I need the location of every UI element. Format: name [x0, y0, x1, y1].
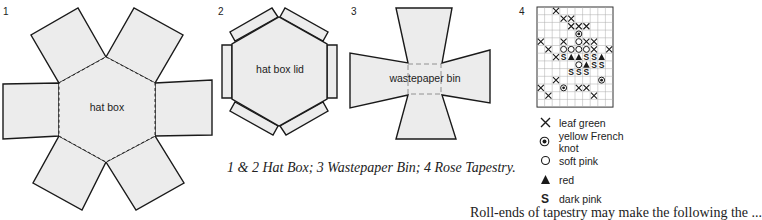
legend-item-yellow-french-knot: yellow French knot [537, 132, 645, 151]
legend-item-soft-pink: soft pink [537, 151, 645, 170]
triangle-icon [537, 174, 553, 185]
hat-box-flap-left [3, 83, 59, 139]
tapestry-chart: SSSSSSSS [537, 7, 613, 107]
svg-text:S: S [568, 67, 574, 77]
svg-text:S: S [576, 67, 582, 77]
cross-icon [537, 117, 553, 128]
s-symbol-icon: S [537, 192, 553, 206]
svg-text:S: S [584, 52, 590, 62]
figure-caption: 1 & 2 Hat Box; 3 Wastepaper Bin; 4 Rose … [227, 160, 516, 176]
legend-item-red: red [537, 170, 645, 189]
circle-icon [537, 155, 553, 166]
svg-text:S: S [561, 52, 567, 62]
svg-text:S: S [591, 60, 597, 70]
dot-circle-icon [537, 136, 553, 147]
hat-box-lid-label: hat box lid [256, 63, 304, 75]
svg-text:S: S [599, 60, 605, 70]
hat-box-flap-right [155, 80, 212, 136]
tapestry-legend: leaf green yellow French knot soft pink … [537, 113, 645, 208]
legend-item-dark-pink: S dark pink [537, 189, 645, 208]
wastepaper-bin-label: wastepaper bin [388, 72, 460, 84]
svg-text:S: S [584, 67, 590, 77]
hat-box-label: hat box [90, 101, 125, 113]
